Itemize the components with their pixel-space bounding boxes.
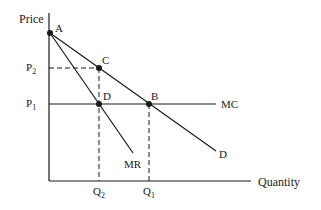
x-axis-label: Quantity [258, 175, 300, 189]
q1-sub: 1 [151, 191, 155, 200]
q2-sub: 2 [101, 191, 105, 200]
q2-main: Q [93, 185, 101, 197]
y-axis-label: Price [19, 12, 44, 26]
mr-curve-label: MR [124, 158, 142, 170]
p1-tick-label: P1 [26, 97, 36, 112]
demand-curve [50, 33, 216, 151]
point-a-marker [47, 30, 53, 36]
p1-sub: 1 [32, 103, 36, 112]
p2-tick-label: P2 [26, 61, 36, 76]
q2-tick-label: Q2 [93, 185, 105, 200]
point-d-marker [96, 101, 102, 107]
q1-main: Q [143, 185, 151, 197]
mc-curve-label: MC [221, 98, 238, 110]
point-a-label: A [55, 22, 63, 34]
demand-curve-label: D [219, 148, 227, 160]
point-c-label: C [102, 54, 109, 66]
q1-tick-label: Q1 [143, 185, 155, 200]
point-b-label: B [151, 90, 158, 102]
monopoly-diagram: Price Quantity A C D B MC D MR P2 P1 Q2 … [0, 0, 321, 210]
p2-sub: 2 [32, 67, 36, 76]
point-d-label: D [103, 90, 111, 102]
mr-curve [50, 33, 133, 153]
